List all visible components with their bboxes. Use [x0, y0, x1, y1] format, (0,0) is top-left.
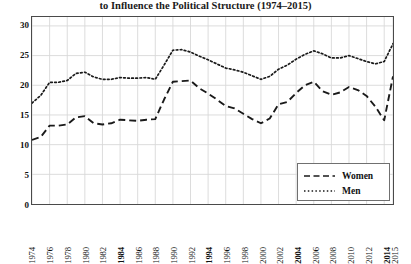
- y-axis-tick-labels: 051015202530: [0, 16, 29, 205]
- x-axis-tick-1980: 1980: [81, 247, 91, 264]
- chart-title: Percentage of Citizens Who Took Action t…: [0, 0, 411, 12]
- x-axis-tick-1974: 1974: [27, 247, 37, 264]
- x-axis-tick-2010: 2010: [346, 247, 356, 264]
- legend-item-men: Men: [303, 183, 384, 198]
- x-axis-tick-2015: 2015: [390, 247, 400, 264]
- y-axis-tick-10: 10: [3, 140, 29, 151]
- y-axis-tick-25: 25: [3, 50, 29, 61]
- y-axis-tick-30: 30: [3, 20, 29, 31]
- x-axis-tick-1982: 1982: [98, 247, 108, 264]
- dotted-line-icon: [303, 186, 336, 196]
- x-axis-tick-1992: 1992: [187, 247, 197, 264]
- x-axis-tick-labels: 1974197619781980198219841986198819901992…: [31, 207, 394, 249]
- x-axis-tick-1984: 1984: [116, 247, 126, 264]
- x-axis-tick-1988: 1988: [151, 247, 161, 264]
- x-axis-tick-1990: 1990: [169, 247, 179, 264]
- x-axis-tick-2012: 2012: [364, 247, 374, 264]
- legend-item-women: Women: [303, 168, 384, 183]
- x-axis-tick-1976: 1976: [45, 247, 55, 264]
- x-axis-tick-1998: 1998: [240, 247, 250, 264]
- x-axis-tick-2004: 2004: [293, 247, 303, 264]
- x-axis-tick-1996: 1996: [222, 247, 232, 264]
- chart-legend: Women Men: [297, 163, 390, 201]
- legend-label-men: Men: [342, 186, 360, 196]
- y-axis-tick-0: 0: [3, 200, 29, 211]
- x-axis-tick-1978: 1978: [63, 247, 73, 264]
- x-axis-tick-2006: 2006: [311, 247, 321, 264]
- x-axis-tick-1994: 1994: [204, 247, 214, 264]
- y-axis-tick-20: 20: [3, 80, 29, 91]
- legend-label-women: Women: [342, 171, 373, 181]
- x-axis-tick-1986: 1986: [134, 247, 144, 264]
- chart-title-line-2: to Influence the Political Structure (19…: [0, 0, 411, 12]
- y-axis-tick-5: 5: [3, 170, 29, 181]
- x-axis-tick-2002: 2002: [275, 247, 285, 264]
- x-axis-tick-2008: 2008: [328, 247, 338, 264]
- y-axis-tick-15: 15: [3, 110, 29, 121]
- dashed-line-icon: [303, 171, 336, 181]
- x-axis-tick-2000: 2000: [258, 247, 268, 264]
